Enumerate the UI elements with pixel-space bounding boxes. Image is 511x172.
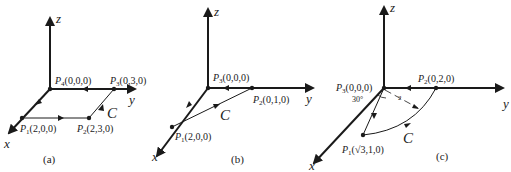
point-label-p1: P1(2,0,0) <box>174 131 211 144</box>
x-axis-label: x <box>151 149 158 164</box>
radius-line <box>385 90 418 108</box>
z-axis-label: z <box>213 4 219 19</box>
point-p2 <box>250 86 254 90</box>
point-label-p2: P2(0,2,0) <box>417 73 454 86</box>
point-label-p2: P2(0,1,0) <box>252 94 289 107</box>
point-label-p2: P2(2,3,0) <box>76 123 113 136</box>
point-label-p1: P1(2,0,0) <box>19 123 56 136</box>
direction-arrow-icon <box>98 104 104 111</box>
figure-canvas: z y x P4(0,0,0) P3(0,3,0) P1(2,0,0) P2(2… <box>0 0 511 172</box>
caption-c: (c) <box>436 150 449 163</box>
x-axis-label: x <box>3 136 10 151</box>
path-p1-p2 <box>172 88 252 127</box>
point-p3 <box>206 86 210 90</box>
direction-arrow-icon <box>223 85 229 91</box>
caption-a: (a) <box>43 153 56 166</box>
point-p1 <box>170 125 174 129</box>
radius-label: 2 <box>398 94 402 102</box>
diagram-c: 2 30° z y x P3(0,0,0) P2(0,2,0) P1(√3,1,… <box>308 0 509 172</box>
curve-label: C <box>107 105 118 121</box>
direction-arrow-icon <box>405 85 411 91</box>
direction-arrow-icon <box>404 123 411 128</box>
diagram-b: z y x P3(0,0,0) P2(0,1,0) P1(2,0,0) C (b… <box>151 4 313 166</box>
direction-arrow-icon <box>213 104 220 109</box>
curve-label: C <box>403 130 414 146</box>
curve-label: C <box>220 107 231 123</box>
direction-arrow-icon <box>82 86 88 92</box>
z-axis-label: z <box>389 0 395 15</box>
point-label-p4: P4(0,0,0) <box>54 75 91 88</box>
point-label-p3: P3(0,0,0) <box>335 82 372 95</box>
diagram-a: z y x P4(0,0,0) P3(0,3,0) P1(2,0,0) P2(2… <box>3 11 146 166</box>
y-axis-label: y <box>501 96 509 111</box>
path-p3-p1 <box>363 88 384 135</box>
y-axis-label: y <box>127 92 135 107</box>
point-p2 <box>87 116 91 120</box>
direction-arrow-icon <box>58 115 64 121</box>
z-axis-label: z <box>55 11 61 26</box>
point-p3 <box>382 86 386 90</box>
point-p1 <box>361 133 365 137</box>
direction-arrow-icon <box>186 101 192 108</box>
angle-label: 30° <box>352 95 363 104</box>
point-label-p3: P3(0,0,0) <box>212 72 249 85</box>
caption-b: (b) <box>231 153 244 166</box>
point-p1 <box>20 116 24 120</box>
point-p4 <box>48 87 52 91</box>
x-axis-label: x <box>308 158 315 172</box>
radius-arrow-icon <box>412 104 419 109</box>
point-label-p3: P3(0,3,0) <box>109 75 146 88</box>
y-axis-label: y <box>304 91 312 106</box>
point-p2 <box>434 86 438 90</box>
point-label-p1: P1(√3,1,0) <box>341 144 384 157</box>
